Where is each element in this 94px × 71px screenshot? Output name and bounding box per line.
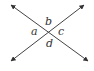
angle-label-a: a xyxy=(31,25,38,38)
angle-label-b: b xyxy=(45,15,52,28)
angle-label-c: c xyxy=(58,25,64,38)
angle-label-d: d xyxy=(46,37,53,50)
intersecting-lines-diagram: b a c d xyxy=(0,0,94,71)
